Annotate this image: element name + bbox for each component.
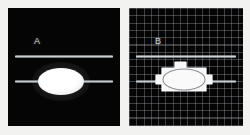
- panel-a-filled-ellipse: [38, 68, 84, 95]
- panel-b-label: B: [155, 36, 161, 46]
- figure-container: A B: [0, 0, 250, 135]
- panel-a-label: A: [34, 36, 40, 46]
- panel-b: B: [129, 8, 243, 126]
- panel-b-mask-polygon-icon: [153, 58, 215, 100]
- panel-b-ellipse-outline: [163, 69, 205, 90]
- panel-a-upper-bar: [15, 55, 113, 58]
- panel-a: A: [8, 8, 120, 126]
